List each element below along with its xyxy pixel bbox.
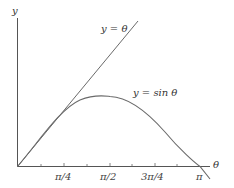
x-ticks	[41, 163, 177, 167]
chart-canvas: y θ y = θ y = sin θ π/4 π/2 3π/4 π	[0, 0, 234, 188]
x-axis-label: θ	[213, 159, 219, 170]
tick-label-3pi-over-4: 3π/4	[141, 171, 164, 182]
sine-label: y = sin θ	[132, 87, 177, 98]
y-axis-label: y	[11, 5, 18, 16]
tick-label-pi: π	[195, 171, 203, 182]
line-label: y = θ	[100, 23, 127, 34]
tick-label-pi-over-2: π/2	[99, 171, 116, 182]
tick-label-pi-over-4: π/4	[54, 171, 71, 182]
